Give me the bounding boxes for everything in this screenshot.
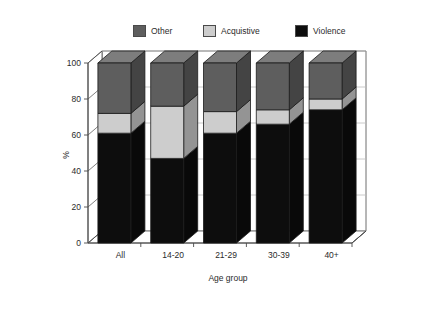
bar-segment: [309, 51, 356, 99]
bar-face: [131, 121, 145, 243]
y-tick-label: 0: [76, 238, 81, 248]
bar-segment: [256, 112, 303, 243]
y-tick-label: 20: [72, 202, 82, 212]
legend-item-other: Other: [133, 25, 172, 37]
plot-area: 020406080100All14-2021-2930-3940+ % Age …: [0, 0, 435, 321]
y-axis-title: %: [61, 151, 71, 159]
bar-face: [237, 121, 251, 243]
legend-item-violence: Violence: [295, 25, 345, 37]
bar-face: [256, 124, 289, 243]
x-tick-label: All: [116, 250, 126, 260]
legend-swatch-other: [133, 25, 146, 37]
bar-segment: [151, 51, 198, 106]
bar-face: [151, 63, 184, 106]
bar-segment: [204, 51, 251, 112]
bar-face: [309, 63, 342, 99]
bar-face: [98, 113, 131, 133]
bar-face: [342, 98, 356, 243]
legend-swatch-violence: [295, 25, 308, 37]
y-tick-label: 40: [72, 166, 82, 176]
x-tick-label: 21-29: [215, 250, 237, 260]
y-tick-label: 80: [72, 94, 82, 104]
bar-face: [309, 110, 342, 243]
bar-face: [151, 158, 184, 243]
bar-segment: [256, 51, 303, 110]
bar-segment: [151, 146, 198, 243]
x-tick-label: 40+: [324, 250, 338, 260]
bar-segment: [204, 121, 251, 243]
bar-face: [289, 112, 303, 243]
bar-face: [98, 63, 131, 113]
x-axis-title: Age group: [208, 273, 247, 283]
bar-face: [256, 110, 289, 124]
chart-figure: Other Acquistive Violence 020406080100Al…: [0, 0, 435, 321]
bar-face: [204, 133, 237, 243]
bar-face: [151, 106, 184, 158]
legend-label-violence: Violence: [313, 27, 345, 36]
bar-face: [204, 112, 237, 134]
x-tick-label: 30-39: [268, 250, 290, 260]
bar-face: [184, 146, 198, 243]
bar-segment: [309, 98, 356, 243]
bar-face: [204, 63, 237, 112]
x-tick-label: 14-20: [162, 250, 184, 260]
chart-svg: 020406080100All14-2021-2930-3940+ % Age …: [0, 0, 435, 321]
legend-label-other: Other: [151, 27, 172, 36]
legend-swatch-acquistive: [203, 25, 216, 37]
legend-item-acquistive: Acquistive: [203, 25, 260, 37]
y-tick-label: 100: [67, 58, 81, 68]
y-tick-label: 60: [72, 130, 82, 140]
bar-face: [256, 63, 289, 110]
bar-face: [98, 133, 131, 243]
legend-label-acquistive: Acquistive: [221, 27, 260, 36]
bar-segment: [98, 51, 145, 113]
bar-face: [309, 99, 342, 110]
bar-segment: [98, 121, 145, 243]
